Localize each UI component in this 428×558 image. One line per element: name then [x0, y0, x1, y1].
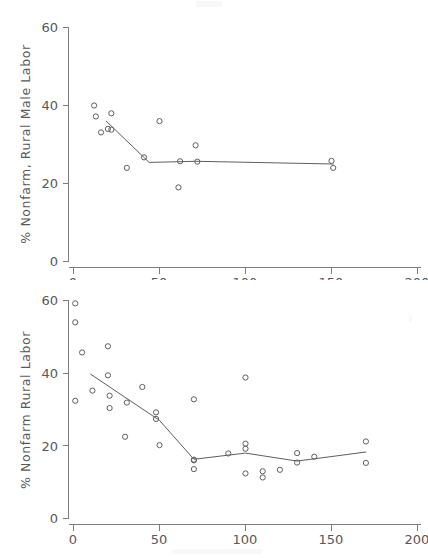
trend-line-top: [106, 121, 333, 164]
data-point: [260, 469, 265, 474]
y-ticklabel-bottom-3: 60: [41, 293, 58, 308]
data-point: [73, 398, 78, 403]
data-point: [243, 441, 248, 446]
data-point: [124, 165, 129, 170]
x-ticklabel-bottom-1: 50: [151, 532, 168, 547]
data-point: [90, 388, 95, 393]
y-ticklabel-top-0: 0: [50, 254, 58, 269]
data-point: [243, 375, 248, 380]
x-ticklabel-bottom-0: 0: [69, 532, 77, 547]
data-point: [193, 143, 198, 148]
data-point: [80, 350, 85, 355]
data-point: [363, 439, 368, 444]
data-point: [176, 185, 181, 190]
data-point: [260, 475, 265, 480]
data-point: [92, 103, 97, 108]
data-point: [243, 471, 248, 476]
data-point: [107, 405, 112, 410]
data-point: [98, 130, 103, 135]
data-point: [191, 397, 196, 402]
y-ticklabel-bottom-2: 40: [41, 366, 58, 381]
data-point: [107, 393, 112, 398]
chart-panel-top: 60 40 20 0 % Nonfarm, Rural Male Labor 0…: [0, 0, 428, 280]
scatter-plot-top: 60 40 20 0 % Nonfarm, Rural Male Labor 0…: [0, 0, 428, 280]
figure-container: 60 40 20 0 % Nonfarm, Rural Male Labor 0…: [0, 0, 428, 558]
data-point: [123, 434, 128, 439]
trend-line-group-top: [106, 121, 333, 164]
y-axis-title-top: % Nonfarm, Rural Male Labor: [18, 44, 33, 244]
data-point: [329, 158, 334, 163]
data-points-group-top: [92, 103, 336, 190]
data-point: [93, 114, 98, 119]
data-point: [140, 384, 145, 389]
data-point: [295, 451, 300, 456]
data-point: [363, 460, 368, 465]
data-point: [73, 301, 78, 306]
x-ticklabel-bottom-2: 100: [233, 532, 258, 547]
data-point: [105, 344, 110, 349]
y-ticklabel-top-2: 40: [41, 98, 58, 113]
data-points-group-bottom: [73, 301, 369, 480]
y-ticklabel-top-1: 20: [41, 176, 58, 191]
data-point: [157, 119, 162, 124]
chart-panel-bottom: 60 40 20 0 % Nonfarm Rural Labor 0 50 10…: [0, 280, 428, 558]
x-ticklabel-bottom-3: 150: [319, 532, 344, 547]
data-point: [191, 466, 196, 471]
data-point: [277, 467, 282, 472]
y-axis-title-bottom: % Nonfarm Rural Labor: [18, 331, 33, 489]
scatter-plot-bottom: 60 40 20 0 % Nonfarm Rural Labor 0 50 10…: [0, 280, 428, 558]
data-point: [243, 446, 248, 451]
trend-line-group-bottom: [91, 374, 366, 461]
y-ticklabel-bottom-1: 20: [41, 439, 58, 454]
y-ticklabel-bottom-0: 0: [50, 511, 58, 526]
trend-line-bottom: [91, 374, 366, 461]
x-ticklabel-bottom-4: 200: [405, 532, 428, 547]
data-point: [153, 410, 158, 415]
data-point: [109, 127, 114, 132]
data-point: [157, 443, 162, 448]
y-ticklabel-top-3: 60: [41, 20, 58, 35]
data-point: [109, 111, 114, 116]
data-point: [124, 400, 129, 405]
data-point: [73, 320, 78, 325]
data-point: [331, 165, 336, 170]
data-point: [105, 373, 110, 378]
